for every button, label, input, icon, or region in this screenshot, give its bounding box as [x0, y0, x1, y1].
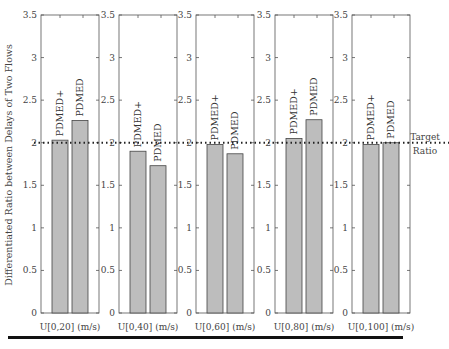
y-tick-label: 2.5 [257, 95, 272, 105]
y-tick-label: 0 [186, 308, 192, 318]
bar-pdmed [383, 143, 399, 313]
y-tick-label: 1 [186, 223, 192, 233]
panel-5: 00.511.522.533.5PDMED+PDMEDU[0,100] (m/s… [334, 10, 415, 332]
y-tick-label: 2 [109, 138, 115, 148]
bar-label: PDMED+ [54, 90, 65, 136]
y-tick-label: 1 [109, 223, 115, 233]
bar-pdmed [306, 120, 322, 313]
bar-pdmed [150, 166, 166, 313]
y-tick-label: 2.5 [101, 95, 116, 105]
y-tick-label: 3.5 [101, 10, 116, 20]
y-axis-label: Differentiated Ratio between Delays of T… [3, 44, 14, 286]
bar-label: PDMED+ [132, 101, 143, 147]
y-tick-label: 3.5 [334, 10, 349, 20]
panel-frame [196, 15, 254, 313]
x-axis-label: U[0,40] (m/s) [118, 322, 179, 332]
bar-pdmed-plus [130, 151, 146, 313]
y-tick-label: 3 [186, 53, 192, 63]
y-tick-label: 1 [31, 223, 37, 233]
y-tick-label: 1.5 [334, 180, 349, 190]
bottom-rule [8, 336, 403, 339]
bar-pdmed [227, 154, 243, 313]
y-tick-label: 3 [31, 53, 37, 63]
x-axis-label: U[0,80] (m/s) [274, 322, 335, 332]
bar-label: PDMED+ [209, 94, 220, 140]
panel-frame [352, 15, 410, 313]
target-label-line1: Target [410, 132, 440, 142]
panel-frame [119, 15, 177, 313]
x-axis-label: U[0,60] (m/s) [195, 322, 256, 332]
bar-pdmed-plus [52, 140, 68, 313]
panel-1: 00.511.522.533.5PDMED+PDMEDU[0,20] (m/s) [23, 10, 101, 332]
y-tick-label: 0 [109, 308, 115, 318]
panel-3: 00.511.522.533.5PDMED+PDMEDU[0,60] (m/s) [178, 10, 256, 332]
y-tick-label: 1.5 [257, 180, 272, 190]
y-tick-label: 1 [265, 223, 271, 233]
chart-panels: 00.511.522.533.5PDMED+PDMEDU[0,20] (m/s)… [23, 10, 415, 332]
bar-label: PDMED [74, 78, 85, 117]
bar-label: PDMED [385, 100, 396, 139]
bar-label: PDMED [229, 111, 240, 150]
y-tick-label: 2.5 [334, 95, 349, 105]
y-tick-label: 0 [31, 308, 37, 318]
bar-pdmed-plus [363, 144, 379, 313]
y-tick-label: 3 [342, 53, 348, 63]
y-tick-label: 3.5 [257, 10, 272, 20]
panel-4: 00.511.522.533.5PDMED+PDMEDU[0,80] (m/s) [257, 10, 335, 332]
bar-label: PDMED+ [365, 94, 376, 140]
x-axis-label: U[0,100] (m/s) [348, 322, 414, 332]
bar-chart: Differentiated Ratio between Delays of T… [0, 0, 449, 349]
bar-label: PDMED+ [288, 88, 299, 134]
y-tick-label: 0.5 [101, 265, 116, 275]
bar-label: PDMED [308, 77, 319, 116]
bar-pdmed-plus [207, 144, 223, 313]
panel-frame [41, 15, 99, 313]
y-tick-label: 2.5 [23, 95, 38, 105]
y-tick-label: 1 [342, 223, 348, 233]
bar-pdmed [72, 121, 88, 313]
y-tick-label: 0.5 [334, 265, 349, 275]
x-axis-label: U[0,20] (m/s) [40, 322, 101, 332]
y-tick-label: 0.5 [178, 265, 193, 275]
y-tick-label: 1.5 [178, 180, 193, 190]
y-tick-label: 0.5 [257, 265, 272, 275]
y-tick-label: 0 [342, 308, 348, 318]
y-tick-label: 3.5 [178, 10, 193, 20]
y-tick-label: 1.5 [23, 180, 38, 190]
y-tick-label: 3 [109, 53, 115, 63]
y-tick-label: 1.5 [101, 180, 116, 190]
bar-pdmed-plus [286, 138, 302, 313]
y-tick-label: 0 [265, 308, 271, 318]
y-tick-label: 2.5 [178, 95, 193, 105]
y-tick-label: 3 [265, 53, 271, 63]
y-tick-label: 3.5 [23, 10, 38, 20]
panel-2: 00.511.522.533.5PDMED+PDMEDU[0,40] (m/s) [101, 10, 179, 332]
target-label-line2: Ratio [413, 146, 437, 156]
panel-frame [275, 15, 333, 313]
y-tick-label: 0.5 [23, 265, 38, 275]
